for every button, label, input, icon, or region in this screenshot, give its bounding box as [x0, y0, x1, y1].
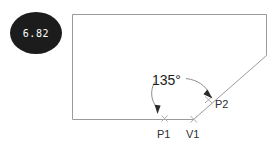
shape-edge-chamfer — [194, 56, 267, 120]
angle-arrowhead-p2 — [203, 90, 212, 99]
value-badge: 6.82 — [10, 12, 62, 54]
angle-label: 135° — [152, 72, 181, 88]
point-marker-p1 — [162, 116, 168, 122]
point-label-p1: P1 — [157, 128, 170, 140]
point-label-v1: V1 — [186, 128, 199, 140]
value-badge-label: 6.82 — [23, 28, 49, 39]
angle-arc-right — [186, 79, 209, 94]
shape-outline — [73, 15, 267, 120]
point-label-p2: P2 — [215, 98, 228, 110]
drawing-canvas: 135° P1 V1 P2 6.82 — [0, 0, 279, 148]
angle-arrowhead-p1 — [155, 105, 161, 114]
geometry-diagram: 135° P1 V1 P2 6.82 — [0, 0, 279, 148]
